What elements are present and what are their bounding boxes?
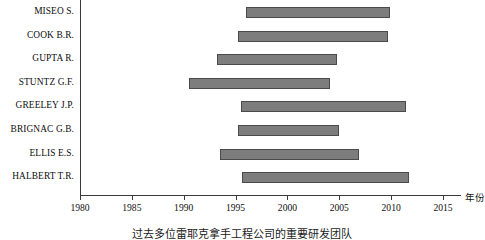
x-tick-label: 2000 xyxy=(267,202,307,213)
x-axis-title: 年份 xyxy=(465,190,485,204)
x-tick-label: 2010 xyxy=(371,202,411,213)
category-label: MISEO S. xyxy=(0,6,74,17)
figure-caption: 过去多位雷耶克拿手工程公司的重要研发团队 xyxy=(0,227,483,240)
category-label: GUPTA R. xyxy=(0,53,74,64)
x-tick-label: 1990 xyxy=(164,202,204,213)
category-label: BRIGNAC G.B. xyxy=(0,124,74,135)
gantt-bar xyxy=(241,101,406,112)
category-label: HALBERT T.R. xyxy=(0,171,74,182)
x-tick-label: 2015 xyxy=(423,202,463,213)
x-tick-label: 1980 xyxy=(60,202,100,213)
category-label: GREELEY J.P. xyxy=(0,100,74,111)
x-tick-label: 2005 xyxy=(319,202,359,213)
gantt-bar xyxy=(220,149,359,160)
gantt-bar xyxy=(246,7,390,18)
category-axis-labels: MISEO S.COOK B.R.GUPTA R.STUNTZ G.F.GREE… xyxy=(0,0,78,196)
category-label: COOK B.R. xyxy=(0,30,74,41)
gantt-bar xyxy=(217,54,337,65)
x-axis-line xyxy=(80,195,461,196)
gantt-bar xyxy=(189,78,330,89)
category-label: ELLIS E.S. xyxy=(0,148,74,159)
x-tick xyxy=(184,196,185,200)
category-label: STUNTZ G.F. xyxy=(0,77,74,88)
x-tick xyxy=(339,196,340,200)
x-tick xyxy=(391,196,392,200)
x-tick-label: 1985 xyxy=(112,202,152,213)
x-tick xyxy=(132,196,133,200)
gantt-bar xyxy=(238,125,340,136)
gantt-bar xyxy=(238,31,388,42)
x-tick xyxy=(443,196,444,200)
gantt-bar xyxy=(242,172,409,183)
x-tick-label: 1995 xyxy=(216,202,256,213)
plot-area: 19801985199019952000200520102015 年份 xyxy=(80,0,483,196)
x-tick xyxy=(236,196,237,200)
x-tick xyxy=(287,196,288,200)
y-axis-line xyxy=(80,0,81,196)
x-tick xyxy=(80,196,81,200)
